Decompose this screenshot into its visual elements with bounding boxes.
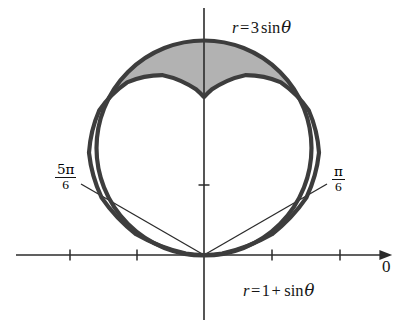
label-angle-5pi-numerator: 5π (55, 162, 76, 176)
label-circle-equals: = (238, 18, 250, 37)
label-cardioid-function: sin (282, 281, 303, 300)
label-circle-equation: r=3sinθ (232, 20, 291, 37)
label-circle-function: sin (259, 18, 280, 37)
label-cardioid-plus: + (270, 281, 282, 300)
label-angle-5pi-denominator: 6 (55, 178, 76, 192)
label-cardioid-equation: r=1+sinθ (243, 283, 315, 300)
label-angle-5pi-over-6: 5π 6 (55, 162, 76, 192)
label-circle-theta: θ (280, 18, 291, 37)
label-polar-axis-origin: 0 (382, 258, 391, 275)
label-cardioid-constant: 1 (262, 281, 270, 300)
label-cardioid-equals: = (249, 281, 261, 300)
label-cardioid-theta: θ (304, 281, 315, 300)
label-angle-pi-numerator: π (332, 164, 345, 178)
label-angle-pi-over-6: π 6 (332, 164, 345, 194)
label-angle-pi-denominator: 6 (332, 180, 345, 194)
label-circle-coefficient: 3 (251, 18, 259, 37)
